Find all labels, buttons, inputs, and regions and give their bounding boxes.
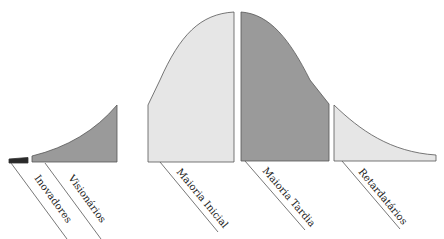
segment-late-majority [241, 12, 329, 161]
label-early-majority: Maioria Inicial [174, 166, 230, 230]
adoption-curve-diagram: Inovadores Visionários Maioria Inicial M… [0, 0, 444, 239]
segment-early-adopters [32, 105, 117, 162]
label-late-majority: Maioria Tardia [260, 165, 317, 229]
segment-early-majority [148, 12, 234, 162]
segment-laggards [334, 105, 436, 161]
label-laggards: Retardatários [356, 166, 409, 226]
segment-innovators [9, 158, 28, 164]
leader-line-laggards [342, 161, 400, 229]
